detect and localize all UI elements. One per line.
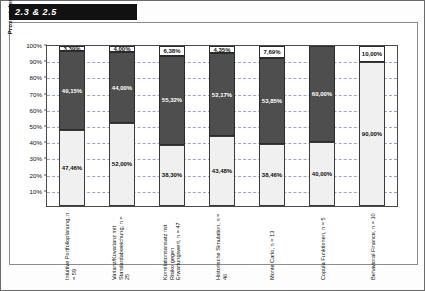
bar-segment-aktiv[interactable]: 38,46% — [259, 144, 285, 206]
bar-segment-value: 47,46% — [62, 165, 82, 171]
bar-segment-passiv[interactable]: 49,15% — [59, 51, 85, 130]
bar-segment-value: 49,15% — [62, 88, 82, 94]
bar-segment-ka[interactable]: 10,00% — [359, 46, 385, 62]
bar-segment-ka[interactable]: 7,69% — [259, 46, 285, 58]
bar-segment-ka[interactable]: 4,35% — [209, 46, 235, 53]
bar-slot: 7,69%53,85%38,46% — [247, 46, 297, 206]
bar-group: 3,39%49,15%47,46%4,00%44,00%52,00%6,38%5… — [47, 46, 397, 206]
stacked-bar[interactable]: 4,00%44,00%52,00% — [109, 46, 135, 206]
y-axis-label: Prozent der Antworten:Nutzung aktiv / pa… — [6, 0, 18, 45]
bar-segment-value: 7,69% — [263, 49, 280, 55]
x-axis-label: Intuitive Portfolioplanung, n = 59 — [65, 210, 78, 280]
bar-segment-passiv[interactable]: 53,85% — [259, 58, 285, 144]
stacked-bar[interactable]: 7,69%53,85%38,46% — [259, 46, 285, 206]
x-axis-label-cell: Korrelationsansatz mit Risiko gegen Erwa… — [147, 208, 197, 280]
bar-segment-passiv[interactable]: 44,00% — [109, 52, 135, 122]
bar-slot: 4,00%44,00%52,00% — [97, 46, 147, 206]
bar-segment-value: 38,30% — [162, 172, 182, 178]
y-axis-ticks: 10%20%30%40%50%60%70%80%90%100% — [18, 45, 44, 207]
x-axis-label-cell: Historische Simulation, n = 46 — [197, 208, 247, 280]
stacked-bar[interactable]: 4,35%52,17%43,48% — [209, 46, 235, 206]
bar-segment-ka[interactable]: 6,38% — [159, 46, 185, 56]
x-axis-label-cell: Varianz/Kovarianz mit Standardabweichung… — [96, 208, 146, 280]
bar-segment-value: 40,00% — [312, 171, 332, 177]
bar-segment-value: 55,32% — [162, 97, 182, 103]
y-tick-label: 30% — [18, 155, 42, 162]
plot-frame: Prozent der Antworten:Nutzung aktiv / pa… — [9, 22, 418, 265]
bar-segment-value: 60,00% — [312, 91, 332, 97]
bar-slot: 4,35%52,17%43,48% — [197, 46, 247, 206]
bar-segment-passiv[interactable]: 55,32% — [159, 56, 185, 145]
bar-segment-value: 43,48% — [212, 168, 232, 174]
y-tick-label: 60% — [18, 106, 42, 113]
x-axis-label-cell: Behavioral Finance, n = 10 — [348, 208, 398, 280]
x-axis-label: Copula Funktionen, n = 5 — [319, 210, 326, 280]
bar-segment-aktiv[interactable]: 40,00% — [309, 142, 335, 206]
y-tick-label: 90% — [18, 58, 42, 65]
x-axis-label-cell: Monte Carlo, n = 13 — [247, 208, 297, 280]
bar-segment-value: 52,00% — [112, 161, 132, 167]
bar-segment-aktiv[interactable]: 52,00% — [109, 123, 135, 206]
y-tick-label: 70% — [18, 90, 42, 97]
y-tick-label: 10% — [18, 187, 42, 194]
bar-segment-value: 4,00% — [113, 46, 130, 52]
stacked-bar[interactable]: 60,00%40,00% — [309, 46, 335, 206]
bar-slot: 3,39%49,15%47,46% — [47, 46, 97, 206]
x-axis-label: Behavioral Finance, n = 10 — [370, 210, 377, 280]
chart-container: 2.3 & 2.5 Prozent der Antworten:Nutzung … — [0, 0, 425, 291]
chart-title-badge: 2.3 & 2.5 — [9, 4, 137, 20]
bar-segment-value: 52,17% — [212, 92, 232, 98]
bar-slot: 10,00%90,00% — [347, 46, 397, 206]
y-tick-label: 20% — [18, 171, 42, 178]
chart-title-text: 2.3 & 2.5 — [15, 7, 57, 17]
stacked-bar[interactable]: 6,38%55,32%38,30% — [159, 46, 185, 206]
bar-segment-value: 90,00% — [362, 131, 382, 137]
bar-segment-value: 6,38% — [163, 48, 180, 54]
bar-segment-value: 4,35% — [213, 47, 230, 53]
plot-area: 3,39%49,15%47,46%4,00%44,00%52,00%6,38%5… — [46, 45, 398, 207]
bar-segment-aktiv[interactable]: 38,30% — [159, 145, 185, 206]
bar-slot: 60,00%40,00% — [297, 46, 347, 206]
y-tick-label: 100% — [18, 42, 42, 49]
bar-segment-value: 10,00% — [362, 51, 382, 57]
bar-slot: 6,38%55,32%38,30% — [147, 46, 197, 206]
bar-segment-value: 53,85% — [262, 98, 282, 104]
bar-segment-passiv[interactable]: 60,00% — [309, 46, 335, 142]
bar-segment-value: 38,46% — [262, 172, 282, 178]
stacked-bar[interactable]: 3,39%49,15%47,46% — [59, 46, 85, 206]
y-tick-label: 50% — [18, 123, 42, 130]
stacked-bar[interactable]: 10,00%90,00% — [359, 46, 385, 206]
x-axis-label: Monte Carlo, n = 13 — [269, 210, 276, 280]
y-tick-label: 40% — [18, 139, 42, 146]
x-axis-label: Historische Simulation, n = 46 — [215, 210, 228, 280]
y-tick-label: 80% — [18, 74, 42, 81]
bar-segment-aktiv[interactable]: 43,48% — [209, 136, 235, 206]
bar-segment-passiv[interactable]: 52,17% — [209, 53, 235, 136]
x-axis-label-cell: Copula Funktionen, n = 5 — [297, 208, 347, 280]
x-axis-label: Varianz/Kovarianz mit Standardabweichung… — [112, 210, 132, 280]
bar-segment-value: 44,00% — [112, 85, 132, 91]
bar-segment-aktiv[interactable]: 47,46% — [59, 130, 85, 206]
x-axis-label-cell: Intuitive Portfolioplanung, n = 59 — [46, 208, 96, 280]
x-axis-labels: Intuitive Portfolioplanung, n = 59Varian… — [46, 208, 398, 280]
x-axis-label: Korrelationsansatz mit Risiko gegen Erwa… — [162, 210, 182, 280]
bar-segment-aktiv[interactable]: 90,00% — [359, 62, 385, 206]
